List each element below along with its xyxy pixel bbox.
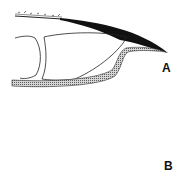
panel-label-a: A <box>162 62 171 74</box>
panel-a <box>12 11 168 87</box>
middle-phalanx <box>15 36 40 78</box>
nail-plate <box>60 18 168 53</box>
nail-bed <box>12 47 166 86</box>
panel-label-b: B <box>164 160 173 172</box>
cuticle-line <box>15 11 62 19</box>
nail-diagram <box>0 0 182 180</box>
